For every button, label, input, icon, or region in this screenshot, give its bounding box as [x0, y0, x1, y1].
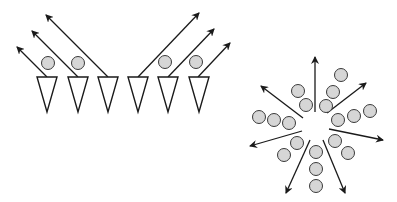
particle-circle [329, 135, 342, 148]
particle-circle [342, 147, 355, 160]
particle-circle [310, 180, 323, 193]
aligned-motion-panel [17, 13, 230, 112]
particle-circle [291, 137, 304, 150]
particle-circle [278, 149, 291, 162]
agent-triangle-icon [98, 77, 118, 112]
agent-triangle-icon [158, 77, 178, 112]
arrow-icon [32, 31, 78, 77]
motion-diagram [0, 0, 397, 202]
agent-triangle-icon [37, 77, 57, 112]
radial-dispersal-panel [250, 57, 383, 193]
agent-triangles [37, 77, 209, 112]
agent-triangle-icon [128, 77, 148, 112]
particle-circle [268, 114, 281, 127]
arrow-icon [198, 43, 230, 77]
arrow-icon [168, 29, 214, 77]
particle-circle [283, 117, 296, 130]
particle-circle [72, 57, 85, 70]
particle-circle [253, 111, 266, 124]
particles [42, 56, 203, 70]
agent-triangle-icon [189, 77, 209, 112]
particle-circle [42, 57, 55, 70]
particle-circle [190, 56, 203, 69]
particle-circle [292, 85, 305, 98]
particle-circle [332, 114, 345, 127]
particle-circle [300, 99, 313, 112]
particle-circle [159, 56, 172, 69]
particle-circle [310, 146, 323, 159]
particle-circle [348, 110, 361, 123]
particle-circle [320, 100, 333, 113]
agent-triangle-icon [68, 77, 88, 112]
particle-circle [364, 105, 377, 118]
particle-circle [335, 69, 348, 82]
diagram-canvas [0, 0, 397, 202]
arrow-icon [323, 140, 345, 193]
particle-circle [327, 86, 340, 99]
particle-circle [310, 163, 323, 176]
